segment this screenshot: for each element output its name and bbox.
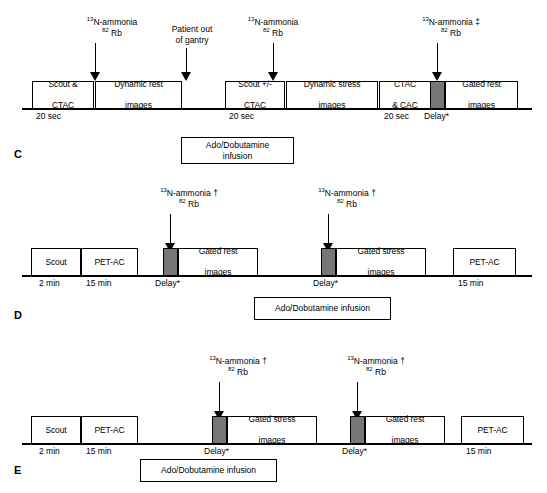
step-d-scout[interactable]: Scout bbox=[31, 248, 81, 276]
arrow-c4 bbox=[432, 43, 443, 81]
caption-d-delay-1: Delay* bbox=[155, 278, 180, 288]
panel-c: 13N-ammonia 82 Rb Patient out of gantry … bbox=[0, 0, 547, 175]
arrow-c3 bbox=[268, 43, 279, 81]
infusion-box-d[interactable]: Ado/Dobutamine infusion bbox=[254, 297, 391, 320]
caption-d-delay-2: Delay* bbox=[313, 278, 338, 288]
panel-e: 13N-ammonia † 82 Rb 13N-ammonia † 82 Rb … bbox=[0, 335, 547, 493]
step-c-scout-pm-ctac[interactable]: Scout +/- CTAC bbox=[225, 81, 285, 109]
caption-e-delay-1: Delay* bbox=[204, 446, 229, 456]
step-e-petac-1[interactable]: PET-AC bbox=[81, 416, 138, 444]
step-e-gated-stress[interactable]: Gated stress images bbox=[227, 416, 317, 444]
arrow-c2 bbox=[181, 48, 192, 81]
tracer-label-c1: 13N-ammonia 82 Rb bbox=[70, 17, 154, 38]
step-d-gated-rest[interactable]: Gated rest images bbox=[178, 248, 258, 276]
step-d-petac-1[interactable]: PET-AC bbox=[81, 248, 138, 276]
arrow-d2 bbox=[323, 214, 334, 252]
caption-c-delay: Delay* bbox=[424, 111, 449, 121]
infusion-box-e[interactable]: Ado/Dobutamine infusion bbox=[140, 459, 277, 482]
caption-e-delay-2: Delay* bbox=[342, 446, 367, 456]
tracer-label-e1: 13N-ammonia † 82 Rb bbox=[192, 356, 284, 377]
step-d-petac-2[interactable]: PET-AC bbox=[453, 248, 516, 276]
step-c-ctac-cac[interactable]: CTAC & CAC bbox=[379, 81, 431, 109]
step-c-dynamic-rest[interactable]: Dynamic rest images bbox=[95, 81, 182, 109]
tracer-label-d1: 13N-ammonia † 82 Rb bbox=[143, 188, 235, 209]
caption-c-20sec-2: 20 sec bbox=[229, 111, 254, 121]
tracer-label-c4: 13N-ammonia ‡ 82 Rb bbox=[405, 17, 497, 38]
step-c-scout-ctac[interactable]: Scout & CTAC bbox=[32, 81, 94, 109]
step-e-scout[interactable]: Scout bbox=[31, 416, 81, 444]
delay-block-e1 bbox=[212, 416, 227, 444]
delay-block-d1 bbox=[163, 248, 178, 276]
tracer-label-c2-patient-out: Patient out of gantry bbox=[155, 24, 229, 45]
panel-letter-e: E bbox=[14, 464, 21, 476]
caption-c-20sec-1: 20 sec bbox=[36, 111, 61, 121]
arrow-c1 bbox=[90, 43, 101, 81]
arrow-e2 bbox=[352, 382, 363, 420]
panel-letter-d: D bbox=[14, 309, 22, 321]
caption-e-15min-2: 15 min bbox=[466, 446, 492, 456]
step-c-dynamic-stress[interactable]: Dynamic stress images bbox=[286, 81, 378, 109]
arrow-e1 bbox=[214, 382, 225, 420]
tracer-label-e2: 13N-ammonia † 82 Rb bbox=[330, 356, 422, 377]
panel-d: 13N-ammonia † 82 Rb 13N-ammonia † 82 Rb … bbox=[0, 175, 547, 335]
step-e-gated-rest[interactable]: Gated rest images bbox=[365, 416, 445, 444]
caption-c-20sec-3: 20 sec bbox=[384, 111, 409, 121]
caption-d-2min: 2 min bbox=[39, 278, 60, 288]
caption-d-15min-1: 15 min bbox=[86, 278, 112, 288]
step-c-gated-rest[interactable]: Gated rest images bbox=[445, 81, 518, 109]
arrow-d1 bbox=[165, 214, 176, 252]
delay-block-d2 bbox=[321, 248, 336, 276]
infusion-box-c[interactable]: Ado/Dobutamine infusion bbox=[181, 137, 294, 164]
step-d-gated-stress[interactable]: Gated stress images bbox=[336, 248, 426, 276]
caption-e-15min-1: 15 min bbox=[86, 446, 112, 456]
panel-letter-c: C bbox=[14, 148, 22, 160]
tracer-label-c3: 13N-ammonia 82 Rb bbox=[231, 17, 315, 38]
delay-block-c bbox=[430, 81, 445, 109]
caption-d-15min-2: 15 min bbox=[458, 278, 484, 288]
delay-block-e2 bbox=[350, 416, 365, 444]
step-e-petac-2[interactable]: PET-AC bbox=[461, 416, 524, 444]
caption-e-2min: 2 min bbox=[39, 446, 60, 456]
tracer-label-d2: 13N-ammonia † 82 Rb bbox=[301, 188, 393, 209]
